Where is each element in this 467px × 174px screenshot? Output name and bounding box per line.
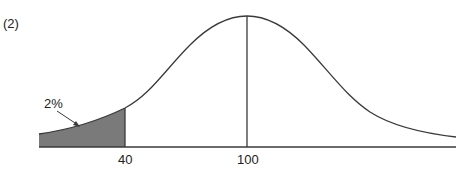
x-tick-100: 100 — [237, 152, 259, 167]
annotation-percent: 2% — [44, 96, 63, 111]
normal-curve-diagram — [0, 0, 467, 174]
x-tick-40: 40 — [118, 152, 132, 167]
